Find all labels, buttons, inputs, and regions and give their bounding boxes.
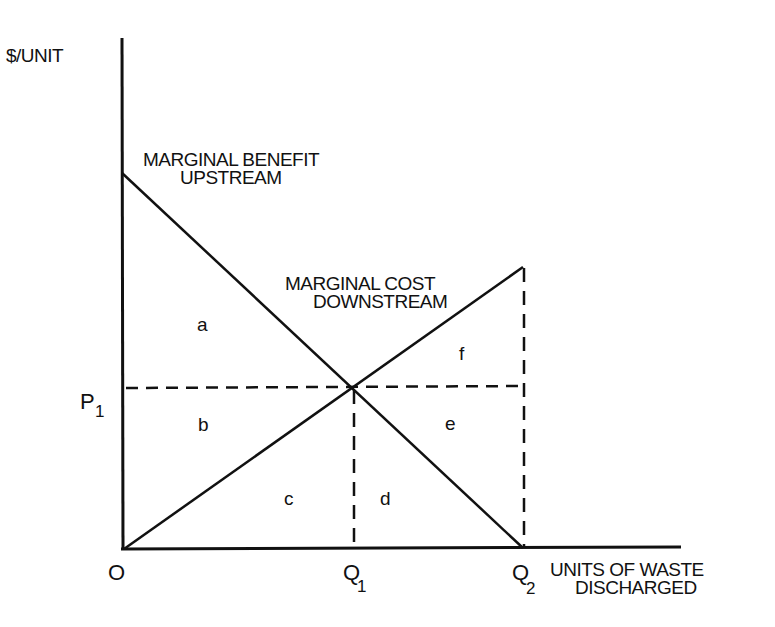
x-axis: [121, 547, 681, 549]
externality-diagram: $/UNIT MARGINAL BENEFIT UPSTREAM MARGINA…: [0, 0, 775, 627]
q2-subscript: 2: [526, 579, 535, 598]
region-b-label: b: [198, 414, 209, 435]
region-e-label: e: [445, 413, 456, 434]
region-c-label: c: [284, 488, 294, 509]
marginal-cost-label-line2: DOWNSTREAM: [313, 291, 447, 312]
region-d-label: d: [380, 488, 391, 509]
p1-subscript: 1: [95, 402, 104, 421]
x-axis-label-line2: DISCHARGED: [575, 577, 697, 598]
y-axis-label: $/UNIT: [6, 45, 64, 66]
q1-subscript: 1: [357, 577, 366, 596]
y-axis: [122, 38, 123, 550]
p1-dashed-line: [126, 386, 523, 388]
region-f-label: f: [459, 343, 465, 364]
p1-label: P: [80, 389, 95, 414]
origin-label: O: [108, 560, 125, 585]
marginal-benefit-label-line2: UPSTREAM: [180, 167, 282, 188]
region-a-label: a: [197, 314, 208, 335]
